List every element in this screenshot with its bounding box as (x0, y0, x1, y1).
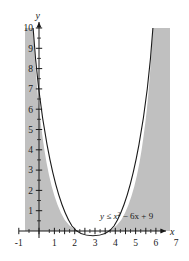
x-tick-label-3: 3 (93, 238, 98, 248)
y-tick-label-4: 4 (28, 145, 33, 155)
y-tick-label-1: 1 (28, 206, 33, 216)
inequality-suffix: − 6x + 9 (121, 211, 154, 221)
shaded-region-right (107, 28, 170, 231)
y-tick-label-3: 3 (28, 165, 33, 175)
x-tick-label-7: 7 (174, 238, 179, 248)
x-tick-label-1: 1 (52, 238, 57, 248)
y-tick-label-9: 9 (28, 44, 33, 54)
x-tick-label-4: 4 (113, 238, 118, 248)
y-tick-label-7: 7 (28, 84, 33, 94)
x-tick-label-5: 5 (133, 238, 138, 248)
plot-canvas: x y (0, 0, 189, 261)
x-tick-label--1: -1 (15, 238, 23, 248)
y-tick-label-8: 8 (28, 64, 33, 74)
shaded-solution-region (25, 28, 170, 231)
inequality-prefix: y ≤ x (99, 211, 117, 221)
x-tick-label-6: 6 (154, 238, 159, 248)
x-tick-label-2: 2 (72, 238, 77, 248)
y-axis-label: y (35, 10, 41, 21)
y-tick-label-5: 5 (28, 125, 33, 135)
inequality-graph-figure: x y (0, 0, 189, 261)
x-axis-label: x (169, 226, 175, 237)
inequality-annotation: y ≤ x2 − 6x + 9 (99, 210, 154, 221)
y-tick-label-6: 6 (28, 105, 33, 115)
y-tick-label-10: 10 (24, 23, 34, 33)
y-axis-arrowhead (37, 22, 42, 28)
shaded-region-left (25, 28, 79, 231)
y-tick-label-2: 2 (28, 186, 33, 196)
